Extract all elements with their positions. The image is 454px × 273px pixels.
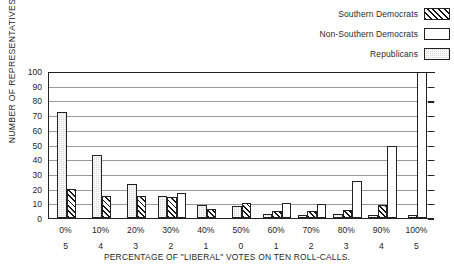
bar bbox=[263, 214, 273, 218]
bar bbox=[408, 215, 418, 218]
y-axis-tick-label: 100 bbox=[16, 68, 42, 76]
y-axis-tick-label: 40 bbox=[16, 156, 42, 164]
bar-group bbox=[330, 71, 365, 218]
bar-group bbox=[400, 71, 435, 218]
bar bbox=[317, 204, 327, 218]
bar bbox=[102, 196, 112, 218]
bar-group bbox=[260, 71, 295, 218]
bar bbox=[92, 155, 102, 218]
bar-group bbox=[189, 71, 224, 218]
bar bbox=[298, 215, 308, 218]
bar-group bbox=[84, 71, 119, 218]
bar-group bbox=[119, 71, 154, 218]
bar-group bbox=[365, 71, 400, 218]
bar bbox=[57, 112, 67, 218]
bar bbox=[127, 184, 137, 218]
x-axis-subtick-label: 5 bbox=[391, 241, 442, 251]
bar bbox=[177, 193, 187, 218]
bar bbox=[167, 197, 177, 218]
bar bbox=[232, 206, 242, 218]
bar bbox=[333, 214, 343, 218]
y-axis-tick-label: 10 bbox=[16, 200, 42, 208]
bar bbox=[137, 196, 147, 218]
bar bbox=[352, 181, 362, 218]
bar bbox=[67, 189, 77, 218]
bar bbox=[282, 203, 292, 218]
bar bbox=[197, 205, 207, 218]
bar-group bbox=[224, 71, 259, 218]
bar-group bbox=[295, 71, 330, 218]
plot-area bbox=[48, 72, 434, 219]
bar bbox=[242, 203, 252, 218]
bar bbox=[272, 211, 282, 218]
y-axis-tick-label: 70 bbox=[16, 112, 42, 120]
y-axis-tick-label: 20 bbox=[16, 186, 42, 194]
y-axis-tick-label: 0 bbox=[16, 215, 42, 223]
y-axis-tick-label: 80 bbox=[16, 97, 42, 105]
bar bbox=[158, 196, 168, 218]
bar bbox=[387, 146, 397, 218]
bar bbox=[368, 215, 378, 218]
y-axis-tick-label: 30 bbox=[16, 171, 42, 179]
axis-tick bbox=[428, 219, 434, 220]
y-axis-tick-label: 60 bbox=[16, 127, 42, 135]
bar-group bbox=[154, 71, 189, 218]
bar bbox=[207, 209, 217, 218]
x-axis-tick-label: 100% bbox=[391, 225, 442, 235]
bar bbox=[343, 210, 353, 218]
y-axis-tick-label: 90 bbox=[16, 83, 42, 91]
x-axis-title: PERCENTAGE OF "LIBERAL" VOTES ON TEN ROL… bbox=[0, 252, 454, 262]
bar-chart: Southern Democrats Non-Southern Democrat… bbox=[0, 0, 454, 273]
bar-group bbox=[49, 71, 84, 218]
bar bbox=[417, 72, 427, 218]
bar bbox=[378, 205, 388, 218]
y-axis-tick-label: 50 bbox=[16, 142, 42, 150]
bar bbox=[307, 211, 317, 218]
